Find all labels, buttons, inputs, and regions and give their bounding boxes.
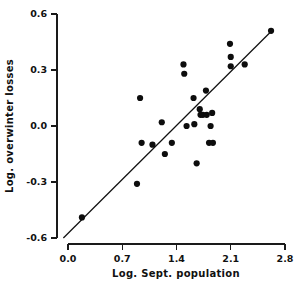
data-point [139,140,145,146]
y-axis-title: Log. overwinter losses [4,59,15,193]
y-tick-label-0: 0.6 [30,8,47,19]
data-points-group [79,28,274,221]
x-tick-label-4: 2.8 [277,253,294,264]
data-point [209,110,215,116]
x-tick-label-1: 0.7 [114,253,131,264]
x-axis-title: Log. Sept. population [112,268,240,279]
data-point [194,160,200,166]
data-point [162,151,168,157]
y-axis-tick-labels: 0.60.30.0-0.3-0.6 [26,8,47,243]
y-tick-label-4: -0.6 [26,232,47,243]
data-point [183,123,189,129]
x-axis-tick-labels: 0.00.71.42.12.8 [60,253,294,264]
regression-line-group [63,31,271,238]
data-point [204,112,210,118]
data-point [79,214,85,220]
x-axis-ticks [68,244,285,250]
data-point [149,142,155,148]
data-point [191,121,197,127]
y-axis-ticks [51,14,57,238]
scatter-plot-figure: 0.60.30.0-0.3-0.6 0.00.71.42.12.8 Log. S… [0,0,302,291]
y-tick-label-2: 0.0 [30,120,47,131]
data-point [228,63,234,69]
data-point [210,140,216,146]
x-tick-label-3: 2.1 [222,253,239,264]
data-point [228,54,234,60]
data-point [197,106,203,112]
plot-canvas: 0.60.30.0-0.3-0.6 0.00.71.42.12.8 Log. S… [0,0,302,291]
data-point [242,61,248,67]
data-point [134,181,140,187]
x-tick-label-0: 0.0 [60,253,77,264]
regression-line [63,31,271,238]
x-tick-label-2: 1.4 [168,253,185,264]
data-point [180,61,186,67]
data-point [268,28,274,34]
y-tick-label-3: -0.3 [26,176,47,187]
data-point [169,140,175,146]
y-tick-label-1: 0.3 [30,64,47,75]
data-point [181,71,187,77]
data-point [203,87,209,93]
data-point [159,119,165,125]
data-point [227,41,233,47]
data-point [190,95,196,101]
data-point [137,95,143,101]
data-point [208,123,214,129]
